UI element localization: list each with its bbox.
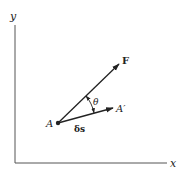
y-axis-label: y	[9, 10, 17, 23]
point-a-label: A	[45, 118, 53, 129]
displacement-label: δs	[74, 124, 85, 134]
force-label: F	[122, 55, 129, 66]
theta-label: θ	[93, 97, 99, 107]
work-diagram: y x F A′ δs θ A	[0, 0, 183, 177]
x-axis-label: x	[170, 157, 177, 170]
point-a-dot	[56, 121, 60, 125]
a-prime-label: A′	[115, 103, 126, 114]
